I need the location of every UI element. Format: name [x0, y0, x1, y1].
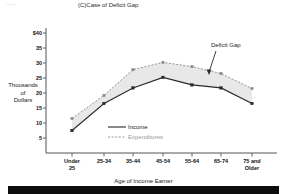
x-axis-title: Age of Income Earner: [0, 178, 287, 184]
page-footer-bar: [8, 186, 279, 194]
chart-figure: (C)Case of Deficit Gap Thousands of Doll…: [0, 0, 287, 194]
legend-marks: [108, 127, 126, 137]
legend-label-expenditures: Expenditures: [128, 134, 163, 140]
x-tick-label-6: 75 andOlder: [232, 158, 272, 172]
scan-artifact-top-left: ⌐⌐⌐: [6, 1, 17, 7]
legend-label-income: Income: [128, 124, 148, 130]
deficit-gap-fill: [72, 62, 252, 130]
deficit-gap-annotation: Deficit Gap: [211, 42, 241, 48]
